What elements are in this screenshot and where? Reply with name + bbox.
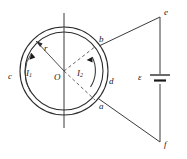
label-current-i1: I1 xyxy=(26,69,32,78)
label-current-i2: I2 xyxy=(77,69,83,78)
label-node-d: d xyxy=(109,77,114,86)
current-i2-arrowhead-icon xyxy=(87,57,93,63)
label-center-o: O xyxy=(54,73,61,82)
wire-a-to-f xyxy=(99,99,160,142)
label-node-b: b xyxy=(99,35,104,44)
label-node-c: c xyxy=(8,72,12,81)
physics-diagram-canvas: O r I1 I2 c b d a e f ε xyxy=(0,0,187,159)
label-node-f: f xyxy=(164,140,167,149)
circuit-diagram-svg xyxy=(0,0,187,159)
label-radius-r: r xyxy=(44,44,48,53)
label-emf-epsilon: ε xyxy=(138,73,142,82)
label-node-e: e xyxy=(164,8,168,17)
label-current-i2-subscript: 2 xyxy=(80,72,83,78)
label-node-a: a xyxy=(99,102,104,111)
label-current-i1-subscript: 1 xyxy=(29,72,32,78)
wire-b-to-e xyxy=(99,17,160,46)
radius-arrowhead-icon xyxy=(36,41,43,47)
